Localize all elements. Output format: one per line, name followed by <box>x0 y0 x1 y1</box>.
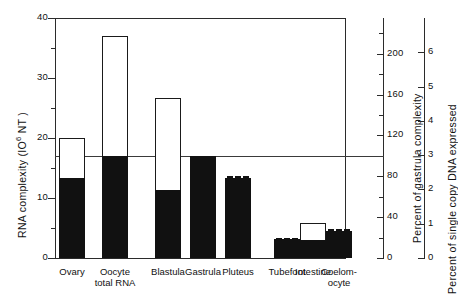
left-axis-title-suffix: NT ) <box>16 112 28 137</box>
bar-intestine <box>300 223 326 258</box>
gastrula-percent-major-tick <box>377 217 383 218</box>
gastrula-percent-tick-label: 0 <box>387 251 413 262</box>
x-axis-label-line1: Coelom- <box>321 266 357 277</box>
left-axis-title: RNA complexity (IO6 NT ) <box>14 112 28 238</box>
single-copy-percent-tick-label: 3 <box>428 148 442 159</box>
left-axis-minor-tick <box>51 168 55 169</box>
left-axis-major-tick <box>48 18 55 19</box>
plot-top-border <box>55 18 346 19</box>
single-copy-percent-major-tick <box>418 121 424 122</box>
gastrula-percent-minor-tick <box>379 238 383 239</box>
gastrula-percent-major-tick <box>377 95 383 96</box>
left-axis-tick-label: 0 <box>22 251 48 262</box>
gastrula-percent-minor-tick <box>379 197 383 198</box>
left-axis-minor-tick <box>51 48 55 49</box>
bar-blastula <box>155 98 181 258</box>
x-axis-label-line2: ocyte <box>295 277 383 288</box>
single-copy-percent-axis-title: Percent of single copy DNA expressed <box>446 104 458 294</box>
left-axis-title-prefix: RNA complexity (IO <box>16 141 28 238</box>
x-axis-line <box>55 258 346 259</box>
gastrula-percent-tick-label: 160 <box>387 88 413 99</box>
bar-fill-intestine <box>300 240 326 258</box>
gastrula-percent-major-tick <box>377 135 383 136</box>
bar-fill-coelomocyte <box>326 231 352 258</box>
x-axis-label-coelomocyte: Coelom-ocyte <box>295 266 383 288</box>
gastrula-percent-minor-tick <box>379 33 383 34</box>
bar-pluteus <box>225 176 251 258</box>
left-axis-title-exponent: 6 <box>14 137 23 141</box>
bar-dashed-cap-pluteus <box>227 176 249 178</box>
single-copy-percent-axis-line <box>424 18 425 259</box>
x-axis-label-line2: total RNA <box>71 277 159 288</box>
bar-dashed-cap-tubefoot <box>276 238 298 240</box>
left-axis-line <box>55 18 56 259</box>
bar-fill-blastula <box>155 190 181 258</box>
single-copy-percent-tick-label: 4 <box>428 114 442 125</box>
left-axis-tick-label: 40 <box>22 11 48 22</box>
bar-fill-gastrula <box>190 156 216 258</box>
left-axis-tick-label: 30 <box>22 71 48 82</box>
single-copy-percent-tick-label: 6 <box>428 45 442 56</box>
bar-coelomocyte <box>326 229 352 258</box>
single-copy-percent-tick-label: 1 <box>428 217 442 228</box>
left-axis-minor-tick <box>51 228 55 229</box>
left-axis-major-tick <box>48 258 55 259</box>
single-copy-percent-major-tick <box>418 155 424 156</box>
bar-fill-oocyte <box>102 156 128 258</box>
bar-oocyte <box>102 36 128 258</box>
left-axis-major-tick <box>48 198 55 199</box>
bar-fill-tubefoot <box>274 239 300 258</box>
gastrula-percent-tick-label: 80 <box>387 169 413 180</box>
bar-ovary <box>59 138 85 258</box>
gastrula-percent-axis-line <box>383 18 384 259</box>
gastrula-percent-tick-label: 40 <box>387 210 413 221</box>
gastrula-percent-minor-tick <box>379 74 383 75</box>
gastrula-percent-minor-tick <box>379 115 383 116</box>
single-copy-percent-tick-label: 5 <box>428 80 442 91</box>
gastrula-percent-major-tick <box>377 176 383 177</box>
single-copy-percent-major-tick <box>418 258 424 259</box>
single-copy-percent-major-tick <box>418 52 424 53</box>
bar-dashed-cap-coelomocyte <box>328 229 350 231</box>
gastrula-percent-tick-label: 200 <box>387 47 413 58</box>
single-copy-percent-major-tick <box>418 189 424 190</box>
bar-gastrula <box>190 156 216 258</box>
gastrula-percent-major-tick <box>377 258 383 259</box>
plot-right-border <box>345 18 346 259</box>
left-axis-major-tick <box>48 138 55 139</box>
left-axis-minor-tick <box>51 108 55 109</box>
bar-tubefoot <box>274 238 300 258</box>
single-copy-percent-major-tick <box>418 224 424 225</box>
bar-fill-pluteus <box>225 178 251 258</box>
bar-fill-ovary <box>59 178 85 258</box>
gastrula-percent-tick-label: 120 <box>387 128 413 139</box>
single-copy-percent-tick-label: 2 <box>428 182 442 193</box>
gastrula-percent-major-tick <box>377 54 383 55</box>
single-copy-percent-tick-label: 0 <box>428 251 442 262</box>
left-axis-major-tick <box>48 78 55 79</box>
single-copy-percent-major-tick <box>418 87 424 88</box>
gastrula-percent-axis-title: Percent of gastrula complexity <box>411 93 423 243</box>
